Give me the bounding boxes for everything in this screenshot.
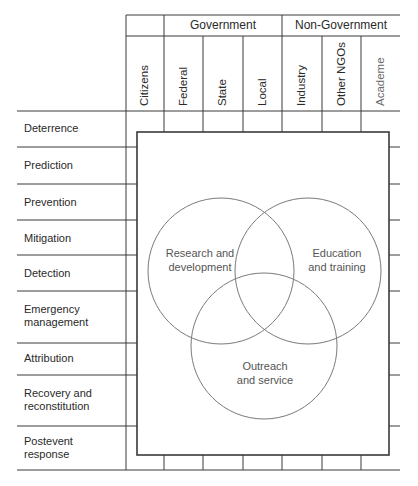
row-postevent-response: Postevent response [24,435,73,461]
column-state: State [216,79,228,106]
row-emergency-management: Emergency management [24,303,88,329]
row-prevention: Prevention [24,196,77,209]
venn-label-line: Research and [150,247,250,261]
diagram: Government Non-Government Citizens Feder… [0,0,418,486]
venn-label-line: and training [292,261,382,275]
row-label-line: management [24,316,88,329]
venn-label-education: Education and training [292,247,382,274]
group-non-government: Non-Government [282,18,400,32]
row-detection: Detection [24,267,70,280]
column-industry: Industry [295,65,307,106]
row-attribution: Attribution [24,352,74,365]
column-academe: Academe [374,57,386,106]
row-recovery-reconstitution: Recovery and reconstitution [24,387,92,413]
column-federal: Federal [177,67,189,106]
row-deterrence: Deterrence [24,122,78,135]
venn-box [137,132,389,455]
venn-label-line: Education [292,247,382,261]
row-label-line: response [24,448,73,461]
column-citizens: Citizens [138,65,150,106]
row-prediction: Prediction [24,159,73,172]
row-label-line: reconstitution [24,400,92,413]
row-label-line: Recovery and [24,387,92,400]
row-label-line: Emergency [24,303,88,316]
venn-label-outreach: Outreach and service [220,360,310,387]
row-mitigation: Mitigation [24,232,71,245]
venn-label-line: development [150,261,250,275]
row-label-line: Postevent [24,435,73,448]
venn-label-line: and service [220,374,310,388]
venn-label-line: Outreach [220,360,310,374]
group-government: Government [164,18,282,32]
column-other-ngos: Other NGOs [335,42,347,106]
column-local: Local [256,79,268,107]
venn-label-research: Research and development [150,247,250,274]
